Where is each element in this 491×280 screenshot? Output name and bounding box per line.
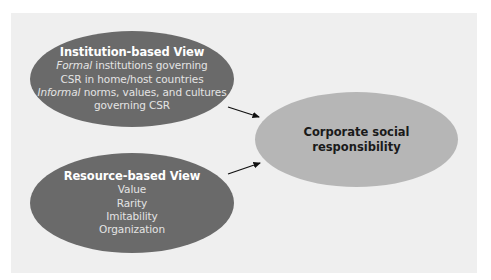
resource-view-item-organization: Organization	[99, 223, 165, 236]
resource-view-title: Resource-based View	[64, 169, 201, 183]
institution-view-title: Institution-based View	[60, 45, 204, 59]
line-text: institutions governing	[92, 59, 208, 71]
line-text: norms, values, and cultures	[80, 86, 226, 98]
emphasis-informal: Informal	[37, 86, 80, 98]
resource-view-item-rarity: Rarity	[117, 197, 147, 210]
institution-based-view-node: Institution-based View Formal institutio…	[30, 31, 234, 127]
institution-view-line-3: Informal norms, values, and cultures	[37, 86, 226, 99]
corporate-social-responsibility-node: Corporate social responsibility	[255, 92, 458, 187]
institution-view-line-2: CSR in home/host countries	[60, 73, 203, 86]
institution-view-line-4: governing CSR	[94, 99, 170, 112]
emphasis-formal: Formal	[56, 59, 92, 71]
csr-label: Corporate social responsibility	[292, 125, 422, 155]
resource-view-item-value: Value	[118, 183, 146, 196]
resource-view-item-imitability: Imitability	[106, 210, 157, 223]
institution-view-line-1: Formal institutions governing	[56, 59, 207, 72]
resource-based-view-node: Resource-based View Value Rarity Imitabi…	[30, 153, 234, 253]
